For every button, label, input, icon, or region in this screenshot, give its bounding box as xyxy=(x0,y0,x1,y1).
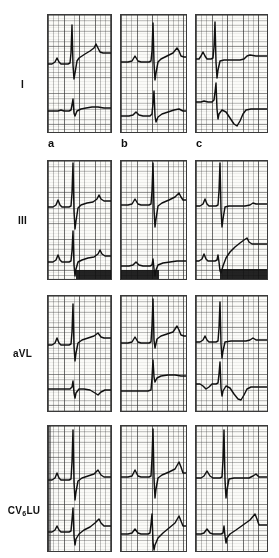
row-label-text: aVL xyxy=(13,348,32,359)
paper-grain xyxy=(48,15,111,132)
paper-grain xyxy=(121,296,186,411)
ecg-panel-aVL-b xyxy=(120,295,187,412)
ecg-panel-III-a xyxy=(47,160,112,280)
paper-grain xyxy=(48,296,111,411)
row-label-lead-I: I xyxy=(0,79,45,90)
paper-grain xyxy=(196,161,267,279)
paper-grain xyxy=(196,296,267,411)
ecg-panel-CV6LU-c xyxy=(195,425,268,552)
row-label-text: CV xyxy=(8,505,23,516)
paper-grain xyxy=(121,426,186,551)
row-label-lead-CV6LU: CV6LU xyxy=(0,505,50,516)
row-label-subscript: 6 xyxy=(22,510,26,517)
ecg-figure: I III aVL CV6LU a b c xyxy=(0,0,279,558)
ecg-panel-III-c xyxy=(195,160,268,280)
paper-grain xyxy=(48,161,111,279)
ecg-panel-aVL-a xyxy=(47,295,112,412)
ecg-panel-I-c xyxy=(195,14,268,133)
paper-grain xyxy=(121,161,186,279)
row-label-lead-aVL: aVL xyxy=(0,348,45,359)
row-label-text: I xyxy=(21,79,24,90)
column-letter-b: b xyxy=(121,137,128,149)
ecg-panel-aVL-c xyxy=(195,295,268,412)
paper-grain xyxy=(48,426,111,551)
ecg-panel-I-a xyxy=(47,14,112,133)
row-label-suffix: LU xyxy=(26,505,40,516)
paper-grain xyxy=(121,15,186,132)
row-label-text: III xyxy=(18,215,27,226)
paper-grain xyxy=(196,426,267,551)
column-letter-a: a xyxy=(48,137,54,149)
ecg-panel-CV6LU-a xyxy=(47,425,112,552)
column-letter-c: c xyxy=(196,137,202,149)
ecg-panel-I-b xyxy=(120,14,187,133)
ecg-panel-III-b xyxy=(120,160,187,280)
row-label-lead-III: III xyxy=(0,215,45,226)
ecg-panel-CV6LU-b xyxy=(120,425,187,552)
paper-grain xyxy=(196,15,267,132)
